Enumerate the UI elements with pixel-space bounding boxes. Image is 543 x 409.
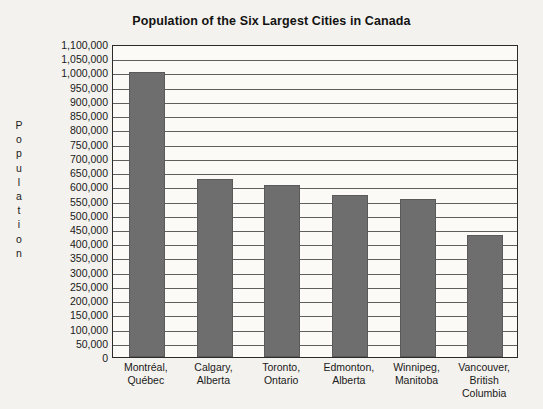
y-axis-tick-label: 450,000 <box>34 224 108 235</box>
y-axis-tick-label: 400,000 <box>34 239 108 250</box>
x-axis-tick-label-line: British <box>444 374 524 387</box>
y-axis-tick-label: 150,000 <box>34 310 108 321</box>
x-axis-tick-label: Vancouver,BritishColumbia <box>444 361 524 401</box>
chart-title: Population of the Six Largest Cities in … <box>0 14 543 28</box>
y-axis-tick-label: 350,000 <box>34 253 108 264</box>
y-axis-tick-label: 0 <box>34 353 108 364</box>
bar-chart: Population of the Six Largest Cities in … <box>0 0 543 409</box>
y-axis-tick-label: 300,000 <box>34 267 108 278</box>
y-axis-title-letter: o <box>10 232 28 246</box>
y-axis-tick-label: 850,000 <box>34 111 108 122</box>
y-axis-tick-label: 650,000 <box>34 168 108 179</box>
bars <box>113 46 517 357</box>
y-axis-title-letter: o <box>10 132 28 146</box>
y-axis-tick-label: 1,100,000 <box>34 40 108 51</box>
y-axis-tick-label: 750,000 <box>34 139 108 150</box>
y-axis-title-letter: P <box>10 118 28 132</box>
y-axis-title: Population <box>10 118 28 260</box>
y-axis-tick-label: 200,000 <box>34 296 108 307</box>
y-axis-tick-labels: 1,100,0001,050,0001,000,000950,000900,00… <box>34 38 108 362</box>
y-axis-tick-label: 800,000 <box>34 125 108 136</box>
x-axis-tick-label-line: Vancouver, <box>444 361 524 374</box>
y-axis-tick-label: 950,000 <box>34 82 108 93</box>
y-axis-tick-label: 1,000,000 <box>34 68 108 79</box>
y-axis-title-letter: i <box>10 217 28 231</box>
y-axis-title-letter: l <box>10 175 28 189</box>
bar <box>400 199 436 357</box>
y-axis-tick-label: 100,000 <box>34 324 108 335</box>
bar <box>332 195 368 357</box>
y-axis-tick-label: 700,000 <box>34 153 108 164</box>
y-axis-tick-label: 250,000 <box>34 281 108 292</box>
bar <box>197 179 233 357</box>
y-axis-tick-label: 50,000 <box>34 338 108 349</box>
y-axis-title-letter: n <box>10 246 28 260</box>
y-axis-tick-label: 900,000 <box>34 96 108 107</box>
bar <box>129 72 165 357</box>
y-axis-title-letter: u <box>10 161 28 175</box>
bar <box>467 235 503 357</box>
bar <box>264 185 300 357</box>
y-axis-tick-label: 1,050,000 <box>34 54 108 65</box>
x-axis-tick-label-line: Columbia <box>444 387 524 400</box>
x-axis-tick-labels: Montréal,QuébecCalgary,AlbertaToronto,On… <box>112 361 518 409</box>
y-axis-tick-label: 600,000 <box>34 182 108 193</box>
y-axis-title-letter: p <box>10 146 28 160</box>
y-axis-tick-label: 500,000 <box>34 210 108 221</box>
plot-area <box>112 45 518 358</box>
y-axis-title-letter: a <box>10 189 28 203</box>
y-axis-tick-label: 550,000 <box>34 196 108 207</box>
y-axis-title-letter: t <box>10 203 28 217</box>
